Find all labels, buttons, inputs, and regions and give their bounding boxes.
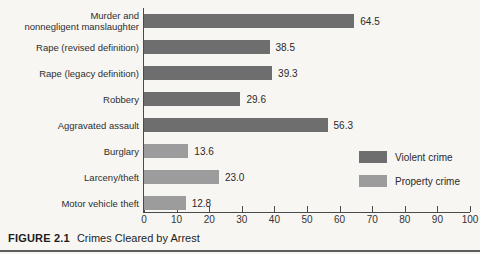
caption-rule bbox=[0, 250, 480, 252]
bar bbox=[144, 170, 219, 184]
bar bbox=[144, 196, 186, 210]
bar-value-label: 23.0 bbox=[225, 170, 244, 184]
bar-value-label: 13.6 bbox=[194, 144, 213, 158]
bar-category-label: Motor vehicle theft bbox=[3, 190, 139, 216]
legend-label: Property crime bbox=[395, 176, 460, 187]
bar-value-label: 38.5 bbox=[276, 40, 295, 54]
bar-category-label-line: Robbery bbox=[103, 94, 139, 105]
bar-chart: 0102030405060708090100 Murder andnonnegl… bbox=[0, 0, 480, 222]
bar bbox=[144, 92, 240, 106]
legend-swatch bbox=[359, 175, 387, 187]
legend-item: Violent crime bbox=[359, 148, 460, 166]
figure-caption: FIGURE 2.1Crimes Cleared by Arrest bbox=[8, 232, 200, 244]
bar-category-label: Aggravated assault bbox=[3, 112, 139, 138]
bar-value-label: 12.8 bbox=[192, 196, 211, 210]
figure-container: 0102030405060708090100 Murder andnonnegl… bbox=[0, 0, 480, 254]
bar-category-label-line: Burglary bbox=[104, 146, 139, 157]
bar-category-label: Murder andnonnegligent manslaughter bbox=[3, 8, 139, 34]
bar-value-label: 56.3 bbox=[334, 118, 353, 132]
bar-value-label: 39.3 bbox=[278, 66, 297, 80]
bar-category-label-line: Murder and bbox=[90, 10, 139, 21]
bar-row: Robbery29.6 bbox=[0, 86, 480, 112]
figure-title: Crimes Cleared by Arrest bbox=[77, 232, 200, 244]
bar-category-label-line: Rape (legacy definition) bbox=[39, 68, 139, 79]
bar bbox=[144, 66, 272, 80]
bar-category-label: Rape (revised definition) bbox=[3, 34, 139, 60]
bar-category-label-line: Aggravated assault bbox=[58, 120, 139, 131]
bar-category-label-line: nonnegligent manslaughter bbox=[24, 21, 139, 32]
bar-category-label-line: Rape (revised definition) bbox=[36, 42, 139, 53]
bar-category-label: Larceny/theft bbox=[3, 164, 139, 190]
legend-label: Violent crime bbox=[395, 152, 453, 163]
bar bbox=[144, 14, 354, 28]
bar-row: Aggravated assault56.3 bbox=[0, 112, 480, 138]
bar bbox=[144, 144, 188, 158]
bar-row: Rape (legacy definition)39.3 bbox=[0, 60, 480, 86]
bar-category-label: Burglary bbox=[3, 138, 139, 164]
bar-category-label: Rape (legacy definition) bbox=[3, 60, 139, 86]
bar bbox=[144, 40, 270, 54]
figure-number: FIGURE 2.1 bbox=[8, 232, 70, 244]
bar-category-label-line: Larceny/theft bbox=[84, 172, 139, 183]
bar-row: Rape (revised definition)38.5 bbox=[0, 34, 480, 60]
bar-row: Murder andnonnegligent manslaughter64.5 bbox=[0, 8, 480, 34]
chart-legend: Violent crimeProperty crime bbox=[359, 148, 460, 196]
bar-category-label: Robbery bbox=[3, 86, 139, 112]
bar-value-label: 64.5 bbox=[360, 14, 379, 28]
legend-item: Property crime bbox=[359, 172, 460, 190]
legend-swatch bbox=[359, 151, 387, 163]
bar bbox=[144, 118, 328, 132]
bar-value-label: 29.6 bbox=[246, 92, 265, 106]
bar-category-label-line: Motor vehicle theft bbox=[61, 198, 139, 209]
